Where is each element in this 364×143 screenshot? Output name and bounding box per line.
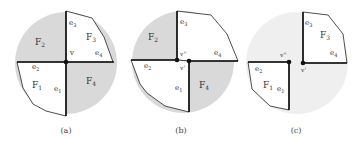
- panel-b: F2 F4 e3 e4 e2 e1 v'' v' (b): [131, 11, 238, 135]
- vertex-v-double-prime: [287, 60, 292, 65]
- caption-b: (b): [175, 126, 186, 135]
- vertex-v-prime: [187, 59, 192, 64]
- panel-c: F3 F1 e3 e4 e2 e1 v'' v' (c): [246, 12, 348, 135]
- panel-a: F2 F3 F1 F4 e3 e4 e2 e1 v (a): [15, 11, 117, 135]
- vertex-v-prime: [301, 61, 306, 66]
- vertex-label-v-prime: v': [300, 66, 306, 73]
- caption-c: (c): [291, 126, 302, 135]
- vertex-label-v: v: [69, 49, 74, 57]
- vertex-label-v-double-prime: v'': [179, 50, 187, 57]
- vertex-v: [64, 60, 69, 65]
- vertex-v-double-prime: [175, 58, 180, 63]
- vertex-label-v-double-prime: v'': [279, 51, 287, 58]
- vertex-split-diagram: F2 F3 F1 F4 e3 e4 e2 e1 v (a) F2 F4 e3 e…: [0, 0, 364, 143]
- caption-a: (a): [60, 126, 71, 135]
- vertex-label-v-prime: v': [179, 64, 185, 71]
